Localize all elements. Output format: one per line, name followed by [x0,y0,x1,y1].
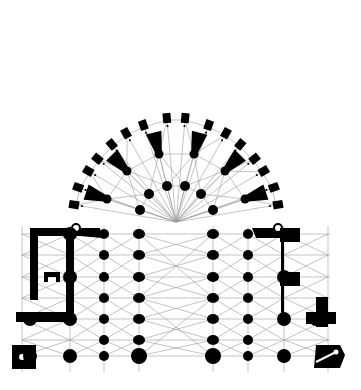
cathedral-floor-plan [0,0,361,390]
chapel-buttresses [68,113,283,210]
